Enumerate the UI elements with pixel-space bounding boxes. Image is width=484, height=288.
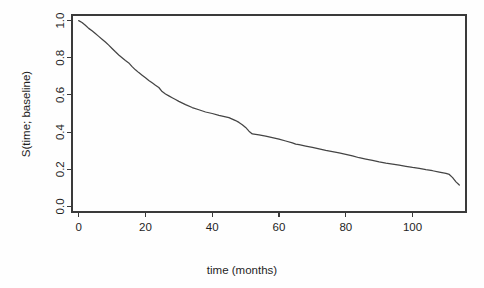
- plot-box-border: [72, 15, 466, 212]
- survival-curve-line: [79, 21, 460, 185]
- y-axis-title: S(time; baseline): [20, 71, 32, 157]
- x-tick-label: 40: [206, 221, 219, 233]
- x-tick-label: 0: [75, 221, 81, 233]
- plot-canvas: 020406080100 0.00.20.40.60.81.0 time (mo…: [0, 0, 484, 288]
- plot-frame: [72, 15, 466, 212]
- y-tick-label: 0.0: [54, 198, 66, 214]
- y-tick-label: 0.6: [54, 87, 66, 103]
- x-tick-label: 20: [139, 221, 152, 233]
- x-axis-tick-labels: 020406080100: [75, 221, 422, 233]
- y-tick-label: 0.2: [54, 161, 66, 177]
- survival-plot-figure: 020406080100 0.00.20.40.60.81.0 time (mo…: [0, 0, 484, 288]
- x-tick-label: 100: [403, 221, 422, 233]
- y-tick-label: 0.4: [54, 123, 66, 140]
- y-tick-label: 1.0: [54, 13, 66, 29]
- y-axis-ticks: [67, 21, 72, 207]
- x-axis-ticks: [79, 212, 413, 217]
- x-axis-title: time (months): [207, 264, 277, 276]
- x-tick-label: 60: [273, 221, 286, 233]
- y-axis-tick-labels: 0.00.20.40.60.81.0: [54, 13, 66, 215]
- data-layer: [79, 21, 460, 185]
- y-tick-label: 0.8: [54, 50, 66, 66]
- x-tick-label: 80: [339, 221, 352, 233]
